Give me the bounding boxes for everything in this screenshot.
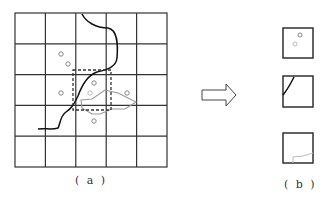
grid-panel-a <box>15 13 167 167</box>
caption-a: ( a ) <box>75 174 107 187</box>
cell-with-points <box>283 28 313 58</box>
point-features <box>59 52 129 123</box>
arrow-right-icon <box>202 84 236 106</box>
cell-with-polygon <box>283 133 313 163</box>
figure-canvas <box>0 0 327 202</box>
cell-with-line <box>283 76 313 107</box>
caption-b: ( b ) <box>284 178 317 191</box>
